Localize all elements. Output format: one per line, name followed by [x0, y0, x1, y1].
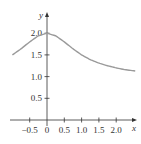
- x-axis-label: x: [131, 123, 136, 133]
- y-tick-label: 1.5: [31, 50, 43, 60]
- y-axis-arrow-icon: [45, 12, 49, 17]
- x-tick-label: −0.5: [22, 125, 39, 135]
- chart: x y −0.500.51.01.52.0 0.51.01.52.0: [0, 0, 141, 144]
- x-tick-label: 0.5: [59, 125, 71, 135]
- x-tick-label: 0: [45, 125, 50, 135]
- x-tick-label: 1.0: [76, 125, 88, 135]
- y-tick-label: 1.0: [31, 72, 43, 82]
- y-axis-label: y: [38, 10, 43, 20]
- y-tick-label: 0.5: [31, 93, 43, 103]
- x-axis-arrow-icon: [132, 118, 137, 122]
- x-tick-label: 1.5: [93, 125, 105, 135]
- x-tick-label: 2.0: [111, 125, 123, 135]
